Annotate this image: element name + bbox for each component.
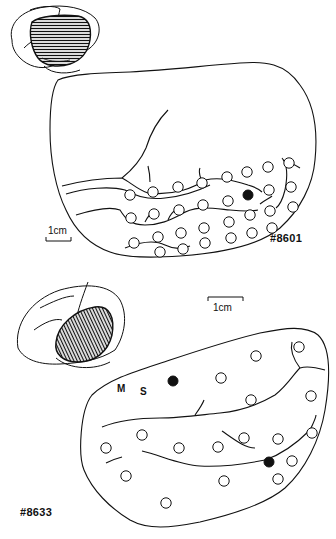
electrode-site-open (246, 395, 256, 405)
electrode-site-open (178, 244, 188, 254)
electrode-site-positive (243, 190, 253, 200)
electrode-site-open (273, 474, 283, 484)
electrode-site-open (307, 428, 317, 438)
electrode-site-open (245, 210, 255, 220)
electrode-site-open (148, 187, 158, 197)
stimulation-area-bottom (56, 307, 113, 362)
electrode-site-open (224, 217, 234, 227)
scale-bar-top (46, 237, 71, 241)
electrode-site-open (174, 443, 184, 453)
electrode-site-open (264, 185, 274, 195)
electrode-site-open (198, 200, 208, 210)
electrode-site-open (153, 232, 163, 242)
electrode-site-open (149, 209, 159, 219)
cortex-outline-bottom (81, 328, 329, 527)
electrode-site-open (174, 205, 184, 215)
electrode-site-open (197, 178, 207, 188)
electrode-site-open (239, 433, 249, 443)
electrode-site-open (155, 247, 165, 257)
electrode-site-open (199, 223, 209, 233)
brain-mapping-diagram (0, 0, 336, 539)
electrode-site-open (226, 233, 236, 243)
electrode-site-open (101, 443, 111, 453)
scale-label-top: 1cm (48, 225, 67, 236)
electrode-site-open (306, 391, 316, 401)
electrode-site-open (129, 238, 139, 248)
electrode-site-open (126, 213, 136, 223)
electrode-site-open (121, 471, 131, 481)
electrode-site-open (173, 182, 183, 192)
electrode-site-open (265, 206, 275, 216)
electrode-site-open (137, 430, 147, 440)
electrode-site-open (161, 498, 171, 508)
electrode-site-open (251, 351, 261, 361)
electrode-site-open (216, 373, 226, 383)
electrode-site-open (213, 442, 223, 452)
electrode-site-open (263, 162, 273, 172)
electrode-site-open (200, 238, 210, 248)
electrode-grid (101, 158, 317, 508)
case-id-top: #8601 (270, 232, 302, 244)
electrode-site-open (125, 190, 135, 200)
electrode-site-open (286, 182, 296, 192)
case-id-bottom: #8633 (20, 506, 52, 518)
electrode-site-open (273, 434, 283, 444)
electrode-site-open (294, 342, 304, 352)
electrode-site-open (288, 202, 298, 212)
electrode-site-open (223, 196, 233, 206)
electrode-site-open (287, 456, 297, 466)
electrode-site-positive (264, 457, 274, 467)
electrode-site-open (176, 228, 186, 238)
label-sensory: S (140, 386, 147, 397)
electrode-site-positive (168, 376, 178, 386)
label-motor: M (117, 383, 125, 394)
electrode-site-open (247, 228, 257, 238)
scale-label-bottom: 1cm (213, 302, 232, 313)
electrode-site-open (219, 476, 229, 486)
stimulation-area-top (30, 15, 90, 66)
electrode-site-open (242, 167, 252, 177)
electrode-site-open (222, 172, 232, 182)
scale-bar-bottom (208, 297, 243, 301)
electrode-site-open (284, 158, 294, 168)
